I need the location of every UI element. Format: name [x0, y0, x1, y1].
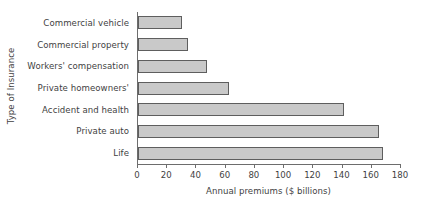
- x-tick-label: 0: [134, 170, 139, 180]
- x-tick-mark: [225, 164, 226, 168]
- category-label: Private homeowners': [18, 77, 133, 99]
- x-tick-label: 120: [304, 170, 320, 180]
- category-axis-labels: Commercial vehicleCommercial propertyWor…: [18, 12, 133, 164]
- plot-area: [137, 12, 401, 164]
- x-tick-label: 80: [248, 170, 259, 180]
- x-tick-mark: [342, 164, 343, 168]
- x-tick-mark: [137, 164, 138, 168]
- category-label: Commercial property: [18, 34, 133, 56]
- x-tick-mark: [166, 164, 167, 168]
- x-tick-mark: [283, 164, 284, 168]
- bar-row: [138, 142, 401, 164]
- bar: [138, 16, 182, 29]
- x-tick-label: 40: [190, 170, 201, 180]
- bar-row: [138, 121, 401, 143]
- category-label: Accident and health: [18, 99, 133, 121]
- bar: [138, 38, 188, 51]
- x-tick-mark: [312, 164, 313, 168]
- bar-row: [138, 12, 401, 34]
- bar: [138, 125, 379, 138]
- x-tick-label: 140: [333, 170, 349, 180]
- x-tick-label: 160: [363, 170, 379, 180]
- x-tick-mark: [254, 164, 255, 168]
- category-label: Commercial vehicle: [18, 12, 133, 34]
- bar-chart: Type of Insurance Commercial vehicleComm…: [0, 0, 448, 218]
- x-axis-ticks: [137, 164, 400, 169]
- x-tick-mark: [195, 164, 196, 168]
- category-label: Workers' compensation: [18, 55, 133, 77]
- bar: [138, 82, 229, 95]
- x-tick-label: 60: [219, 170, 230, 180]
- x-tick-label: 20: [161, 170, 172, 180]
- x-axis-tick-labels: 020406080100120140160180: [137, 170, 400, 182]
- bar: [138, 103, 344, 116]
- x-tick-mark: [400, 164, 401, 168]
- bar: [138, 60, 207, 73]
- bar-series: [138, 12, 401, 164]
- category-label: Life: [18, 142, 133, 164]
- bar-row: [138, 34, 401, 56]
- x-tick-mark: [371, 164, 372, 168]
- x-tick-label: 100: [275, 170, 291, 180]
- category-label: Private auto: [18, 121, 133, 143]
- bar-row: [138, 99, 401, 121]
- bar-row: [138, 77, 401, 99]
- bar-row: [138, 55, 401, 77]
- x-tick-label: 180: [392, 170, 408, 180]
- x-axis-title: Annual premiums ($ billions): [137, 186, 400, 196]
- bar: [138, 147, 383, 160]
